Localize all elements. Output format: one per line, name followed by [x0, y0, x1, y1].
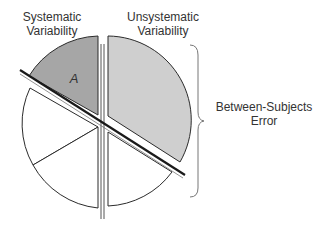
unsystematic-line-2: Variability: [118, 24, 208, 38]
segment-a-label: A: [66, 72, 82, 86]
between-line-2: Error: [208, 114, 320, 128]
brace-icon: [190, 45, 204, 197]
systematic-label: Systematic Variability: [12, 10, 92, 38]
unsystematic-label: Unsystematic Variability: [118, 10, 208, 38]
between-subjects-label: Between-Subjects Error: [208, 100, 320, 128]
between-line-1: Between-Subjects: [208, 100, 320, 114]
unsystematic-line-1: Unsystematic: [118, 10, 208, 24]
systematic-line-2: Variability: [12, 24, 92, 38]
systematic-line-1: Systematic: [12, 10, 92, 24]
